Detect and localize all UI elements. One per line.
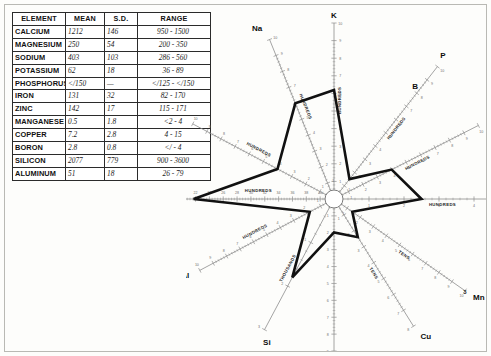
axis-tick-Cu-7 <box>401 309 405 312</box>
cell-mean: 403 <box>66 51 105 64</box>
axis-tick-Al-9 <box>212 261 214 266</box>
table-header-row: ELEMENT MEAN S.D. RANGE <box>13 13 211 26</box>
axis-tick-P-9 <box>425 78 429 81</box>
axis-tick-label-Zn-4: 4 <box>473 204 475 208</box>
axis-tick-label-Al-8: 8 <box>223 249 225 253</box>
axis-tick-P-5 <box>384 131 388 134</box>
axis-tick-Mn-2 <box>359 215 362 219</box>
element-statistics-table: ELEMENT MEAN S.D. RANGE CALCIUM121214695… <box>12 12 211 181</box>
axis-tick-Al-1 <box>319 204 321 209</box>
axis-tick-label-K-3: 3 <box>339 145 341 149</box>
axis-tick-Mg-7 <box>234 144 236 149</box>
cell-sd: 17 <box>105 103 138 116</box>
cell-element: MANGANESE <box>13 116 66 129</box>
axis-tick-label-K-2: 2 <box>339 162 341 166</box>
table-row: MAGNESIUM25054200 - 350 <box>13 38 211 51</box>
axis-tick-label-B2-5: 5 <box>327 282 329 286</box>
axis-tick-label-Na-7: 7 <box>294 84 296 88</box>
axis-tick-Si-3 <box>262 328 267 330</box>
axis-tick-label-Cu-3: 3 <box>358 249 360 253</box>
axis-tick-Cu-5 <box>381 277 385 280</box>
radar-chart-svg: 12345678910HUNDREDS12345678910HUNDREDS12… <box>186 6 486 351</box>
axis-tick-label-P-8: 8 <box>421 96 423 100</box>
axis-tick-label-Ca-10: 22 <box>194 191 198 195</box>
axis-tick-label-Mg-1: 1 <box>322 185 324 189</box>
axis-tick-label-Al-2: 2 <box>303 206 305 210</box>
axis-tick-Al-7 <box>239 247 241 252</box>
axis-scale-label-Ca: HUNDREDS <box>245 188 272 193</box>
axis-name-label-Si: Si <box>263 338 271 347</box>
axis-tick-label-P-7: 7 <box>410 109 412 113</box>
axis-marker-mn-3: 3 <box>463 289 467 295</box>
axis-tick-label-Na-8: 8 <box>287 68 289 72</box>
axis-tick-label-Zn-1: 1 <box>368 204 370 208</box>
cell-mean: 2.8 <box>66 142 105 155</box>
cell-element: ZINC <box>13 103 66 116</box>
cell-mean: 1212 <box>66 25 105 38</box>
axis-tick-label-B2-6: 6 <box>327 299 329 303</box>
cell-mean: 131 <box>66 90 105 103</box>
axis-tick-label-Ca-4: 34 <box>277 191 281 195</box>
axis-tick-P-1 <box>342 184 346 187</box>
axis-tick-label-Mn-3: 3 <box>369 230 371 234</box>
axis-tick-Al-5 <box>266 232 268 237</box>
chart-origin-hub <box>325 190 343 208</box>
axis-tick-Mn-8 <box>437 270 440 274</box>
axis-tick-label-Mg-3: 3 <box>294 170 296 174</box>
cell-mean: 0.5 <box>66 116 105 129</box>
table-row: ALUMINUM511826 - 79 <box>13 167 211 180</box>
axis-tick-Mn-7 <box>424 261 427 265</box>
axis-name-label-P: P <box>440 51 446 60</box>
axis-tick-label-P-9: 9 <box>431 82 433 86</box>
axis-tick-Mn-4 <box>385 234 388 238</box>
axis-tick-label-B2-9: 9 <box>327 350 329 351</box>
axis-tick-label-B2-7: 7 <box>327 316 329 320</box>
axis-tick-label-K-8: 8 <box>339 57 341 61</box>
axis-tick-label-K-1: 1 <box>339 180 341 184</box>
cell-sd: 2.8 <box>105 129 138 142</box>
axis-tick-Al-6 <box>252 240 254 245</box>
axis-tick-P-7 <box>404 105 408 108</box>
axis-name-label-Mn: Mn <box>473 293 485 302</box>
axis-scale-group-Mg: HUNDREDS <box>246 141 272 158</box>
cell-sd: 32 <box>105 90 138 103</box>
axis-tick-label-Fe-7: 7 <box>437 152 439 156</box>
table-row: IRON1313282 - 170 <box>13 90 211 103</box>
axis-name-label-B: B <box>412 82 418 91</box>
axis-tick-Mg-5 <box>262 159 264 164</box>
axis-tick-Mg-6 <box>248 152 250 157</box>
axis-tick-Mg-10 <box>192 122 194 127</box>
axis-tick-label-Mn-8: 8 <box>434 276 436 280</box>
axis-tick-Cu-3 <box>362 245 366 248</box>
axis-tick-label-K-10: 10 <box>338 22 342 26</box>
axis-tick-label-Na-3: 3 <box>319 147 321 151</box>
cell-sd: 779 <box>105 154 138 167</box>
axis-scale-group-Ca: HUNDREDS <box>245 188 272 193</box>
element-statistics-table-wrapper: ELEMENT MEAN S.D. RANGE CALCIUM121214695… <box>12 12 194 181</box>
axis-tick-label-B2-4: 4 <box>327 265 329 269</box>
axis-scale-label-Mn: TENS <box>398 249 411 260</box>
cell-element: ALUMINUM <box>13 167 66 180</box>
column-header-element: ELEMENT <box>13 13 66 26</box>
axis-tick-Mn-3 <box>372 224 375 228</box>
cell-mean: 142 <box>66 103 105 116</box>
axis-tick-label-Mn-10: 10 <box>460 294 464 298</box>
axis-tick-P-4 <box>373 144 377 147</box>
cell-mean: 250 <box>66 38 105 51</box>
table-row: BORON2.80.8</ - 4 <box>13 142 211 155</box>
figure-page: ELEMENT MEAN S.D. RANGE CALCIUM121214695… <box>0 0 491 356</box>
axis-tick-label-Fe-2: 2 <box>365 188 367 192</box>
cell-sd: 18 <box>105 167 138 180</box>
axis-tick-label-B2-1: 1 <box>327 214 329 218</box>
table-row: ZINC14217115 - 171 <box>13 103 211 116</box>
axis-tick-label-Mg-8: 8 <box>223 132 225 136</box>
axis-tick-label-Cu-7: 7 <box>397 312 399 316</box>
axis-tick-label-Fe-8: 8 <box>451 144 453 148</box>
table-row: SILICON2077779900 - 3600 <box>13 154 211 167</box>
axis-tick-label-B2-8: 8 <box>327 333 329 337</box>
axis-tick-Cu-8 <box>411 325 415 328</box>
axis-tick-label-B2-2: 2 <box>327 231 329 235</box>
axis-tick-label-Mg-7: 7 <box>237 140 239 144</box>
cell-element: PHOSPHORUS <box>13 77 66 90</box>
axis-tick-Mg-3 <box>290 174 292 179</box>
